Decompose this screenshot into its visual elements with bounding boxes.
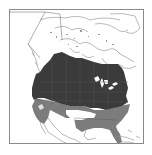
northwest-border-lines [10,12,62,58]
range-map [10,10,144,144]
pacific-coast-outline [28,44,40,72]
map-frame [9,9,144,144]
